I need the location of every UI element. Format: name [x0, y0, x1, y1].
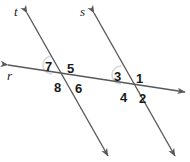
line-r: [8, 65, 185, 92]
angle-label-2: 2: [139, 92, 146, 105]
angle-label-1: 1: [136, 72, 143, 85]
line-t: [27, 13, 108, 156]
angle-label-5: 5: [67, 62, 74, 75]
diagram-canvas: [0, 0, 190, 162]
angle-label-6: 6: [75, 82, 82, 95]
line-label-s: s: [80, 5, 85, 18]
line-label-t: t: [14, 5, 18, 18]
angle-label-4: 4: [120, 91, 127, 104]
angle-label-7: 7: [45, 60, 52, 73]
angle-label-8: 8: [54, 81, 61, 94]
geometry-figure: t s r 1 2 3 4 5 6 7 8: [0, 0, 190, 162]
angle-label-3: 3: [114, 70, 121, 83]
line-label-r: r: [7, 69, 12, 82]
